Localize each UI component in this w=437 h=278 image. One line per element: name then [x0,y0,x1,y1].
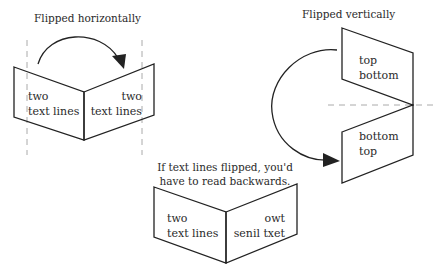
backwards-right-page-text: owt senil txet [230,211,285,241]
vertical-caption: Flipped vertically [302,7,395,21]
arrowhead-icon [112,54,126,69]
backwards-left-line-2: text lines [167,226,218,241]
flip-arrow-curve [38,37,118,64]
top-page-line-1: top [359,53,399,68]
backwards-left-line-1: two [167,211,218,226]
top-page-text: top bottom [359,53,399,83]
backwards-caption: If text lines flipped, you'd have to rea… [150,160,300,188]
right-page-text: two text lines [90,89,142,119]
right-page-line-1: two [90,89,142,104]
backwards-caption-line-1: If text lines flipped, you'd [150,160,300,174]
backwards-right-line-2: senil txet [230,226,285,241]
backwards-left-page-text: two text lines [167,211,218,241]
bottom-page-line-1: bottom [359,129,399,144]
flip-arrow-curve [272,50,337,160]
left-page-line-2: text lines [28,104,79,119]
arrowhead-icon [323,153,340,167]
horizontal-caption: Flipped horizontally [34,11,141,25]
backwards-caption-line-2: have to read backwards. [150,174,300,188]
bottom-page-line-2: top [359,144,399,159]
left-page-text: two text lines [28,89,79,119]
right-page-line-2: text lines [90,104,142,119]
top-page-line-2: bottom [359,68,399,83]
left-page-line-1: two [28,89,79,104]
backwards-right-line-1: owt [230,211,285,226]
bottom-page-text: bottom top [359,129,399,159]
